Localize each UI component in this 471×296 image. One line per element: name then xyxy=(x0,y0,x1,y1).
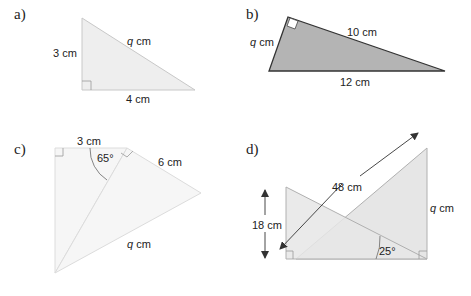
diagram-canvas: a) 3 cm q cm 4 cm b) q cm 10 cm 12 cm c)… xyxy=(0,0,471,296)
side-label-right: q cm xyxy=(430,202,454,214)
figure-a-label: a) xyxy=(14,6,26,23)
figure-d-label: d) xyxy=(246,141,259,158)
side-label-left: 3 cm xyxy=(53,47,77,59)
unit: cm xyxy=(133,35,151,47)
figure-c-label: c) xyxy=(14,141,26,158)
figure-b: b) q cm 10 cm 12 cm xyxy=(246,6,445,88)
side-label-bottom: 4 cm xyxy=(126,93,150,105)
side-label-hypotenuse: q cm xyxy=(127,35,151,47)
side-label-right: 6 cm xyxy=(158,156,182,168)
unit: cm xyxy=(133,238,151,250)
angle-label: 65° xyxy=(97,152,114,164)
side-label-top: 10 cm xyxy=(347,26,377,38)
unit: cm xyxy=(256,36,274,48)
side-label-top: 3 cm xyxy=(77,135,101,147)
figure-d: d) 48 cm 18 cm q cm 25° xyxy=(246,133,454,259)
triangle-a xyxy=(82,18,195,90)
side-label-left: q cm xyxy=(250,36,274,48)
side-label-diagonal: q cm xyxy=(127,238,151,250)
figure-a: a) 3 cm q cm 4 cm xyxy=(14,6,195,105)
side-label-left: 18 cm xyxy=(252,219,282,231)
angle-label: 25° xyxy=(379,245,396,257)
figure-c: c) 3 cm 65° 6 cm q cm xyxy=(14,135,201,273)
side-label-bottom: 12 cm xyxy=(340,76,370,88)
figure-b-label: b) xyxy=(246,6,259,23)
side-label-diagonal: 48 cm xyxy=(332,181,362,193)
unit: cm xyxy=(436,202,454,214)
